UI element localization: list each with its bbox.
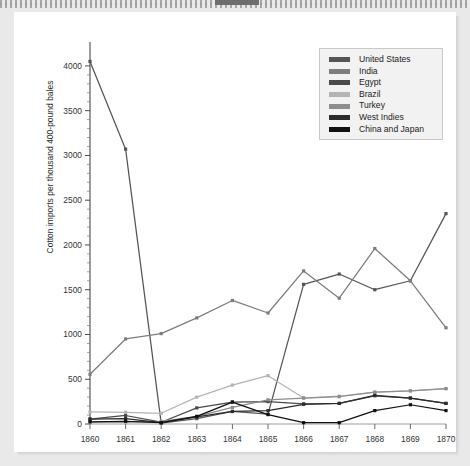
x-tick-label: 1863 [187,434,206,444]
legend-item-india[interactable]: India [320,66,442,78]
legend-item-label: Turkey [359,100,385,112]
data-point-marker [88,373,91,376]
x-tick-label: 1870 [437,434,456,444]
legend-swatch-icon [329,69,350,74]
x-tick-label: 1862 [152,434,171,444]
data-point-marker [338,395,341,398]
data-point-marker [444,402,447,405]
data-point-marker [373,391,376,394]
data-point-marker [124,411,127,414]
x-tick-label: 1868 [365,434,384,444]
y-axis-label: Cotton imports per thousand 400-pound ba… [45,67,55,267]
legend-swatch-icon [329,57,350,62]
data-point-marker [373,247,376,250]
y-tick-label: 4000 [63,61,82,71]
x-tick-label: 1865 [259,434,278,444]
series-brazil [88,374,447,415]
chart-card: 0500100015002000250030003500400018601861… [14,12,456,452]
data-point-marker [444,409,447,412]
data-point-marker [409,279,412,282]
data-point-marker [195,406,198,409]
data-point-marker [373,394,376,397]
data-point-marker [302,421,305,424]
legend-swatch-icon [329,80,350,85]
legend-swatch-icon [329,92,350,97]
data-point-marker [231,406,234,409]
legend-item-brazil[interactable]: Brazil [320,89,442,101]
legend-item-egypt[interactable]: Egypt [320,77,442,89]
y-tick-label: 3000 [63,150,82,160]
data-point-marker [302,283,305,286]
data-point-marker [195,415,198,418]
data-point-marker [302,396,305,399]
legend-item-united-states[interactable]: United States [320,54,442,66]
y-tick-label: 0 [77,419,82,429]
data-point-marker [266,409,269,412]
data-point-marker [373,409,376,412]
screenshot-root: 0500100015002000250030003500400018601861… [0,0,470,466]
data-point-marker [266,398,269,401]
data-point-marker [195,316,198,319]
x-tick-label: 1869 [401,434,420,444]
legend-item-label: United States [359,54,411,66]
data-point-marker [124,414,127,417]
data-point-marker [409,389,412,392]
x-tick-label: 1867 [330,434,349,444]
card-shadow-bottom [18,452,458,456]
data-point-marker [338,272,341,275]
data-point-marker [124,337,127,340]
data-point-marker [231,400,234,403]
data-point-marker [124,420,127,423]
data-point-marker [373,288,376,291]
y-tick-label: 3500 [63,106,82,116]
data-point-marker [266,413,269,416]
data-point-marker [160,421,163,424]
y-tick-label: 1500 [63,285,82,295]
data-point-marker [266,374,269,377]
legend-item-label: India [359,66,378,78]
data-point-marker [409,396,412,399]
data-point-marker [266,311,269,314]
data-point-marker [231,410,234,413]
y-tick-label: 2500 [63,195,82,205]
legend-item-china-and-japan[interactable]: China and Japan [320,124,442,136]
x-tick-label: 1866 [294,434,313,444]
y-tick-label: 1000 [63,329,82,339]
legend-item-label: China and Japan [359,124,424,136]
data-point-marker [160,412,163,415]
legend-item-west-indies[interactable]: West Indies [320,112,442,124]
series-line [90,389,446,423]
data-point-marker [444,326,447,329]
data-point-marker [231,299,234,302]
legend-swatch-icon [329,104,350,109]
data-point-marker [444,387,447,390]
top-notch-marker [215,0,259,5]
legend-item-turkey[interactable]: Turkey [320,100,442,112]
card-shadow-right [456,16,460,452]
data-point-marker [124,148,127,151]
legend-item-label: West Indies [359,112,404,124]
legend-swatch-icon [329,115,350,120]
legend-swatch-icon [329,127,350,132]
data-point-marker [409,403,412,406]
data-point-marker [338,402,341,405]
data-point-marker [231,383,234,386]
data-point-marker [195,396,198,399]
data-point-marker [160,332,163,335]
data-point-marker [302,269,305,272]
data-point-marker [88,410,91,413]
y-tick-label: 500 [68,374,82,384]
data-point-marker [338,421,341,424]
data-point-marker [338,297,341,300]
legend-item-label: Brazil [359,89,381,101]
data-point-marker [444,212,447,215]
x-tick-label: 1864 [223,434,242,444]
series-india [88,247,447,376]
data-point-marker [88,420,91,423]
legend-item-label: Egypt [359,77,381,89]
data-point-marker [88,60,91,63]
chart-legend: United StatesIndiaEgyptBrazilTurkeyWest … [319,48,443,140]
x-tick-label: 1861 [116,434,135,444]
x-tick-label: 1860 [81,434,100,444]
y-tick-label: 2000 [63,240,82,250]
